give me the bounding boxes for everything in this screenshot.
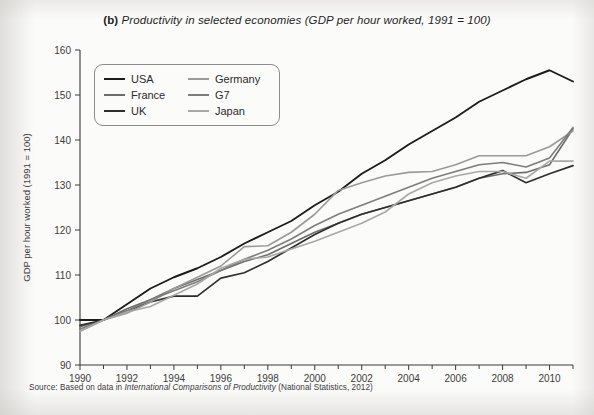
- y-tick-label: 140: [54, 135, 71, 146]
- legend-column-left: USA France UK: [104, 71, 165, 119]
- source-suffix: (National Statistics, 2012): [278, 383, 373, 392]
- y-axis: 90100110120130140150160: [54, 45, 80, 371]
- chart-legend: USA France UK Germany G7 Japan: [94, 64, 280, 126]
- source-prefix: Source: Based on data in: [29, 383, 122, 392]
- x-tick-label: 2006: [444, 373, 467, 384]
- x-axis: 1990199219941996199820002002200420062008…: [69, 365, 573, 384]
- legend-item-japan: Japan: [188, 103, 260, 119]
- legend-item-uk: UK: [104, 103, 165, 119]
- plot-area: 90100110120130140150160 1990199219941996…: [0, 0, 594, 415]
- y-tick-label: 110: [55, 270, 71, 281]
- legend-label-japan: Japan: [215, 106, 245, 117]
- y-tick-label: 90: [60, 360, 72, 371]
- legend-label-germany: Germany: [215, 74, 260, 85]
- legend-item-france: France: [104, 87, 165, 103]
- source-note: Source: Based on data in International C…: [29, 383, 373, 392]
- legend-column-right: Germany G7 Japan: [188, 71, 260, 119]
- series-line-japan: [80, 161, 573, 331]
- source-title: International Comparisons of Productivit…: [124, 383, 275, 392]
- legend-item-germany: Germany: [188, 71, 260, 87]
- legend-swatch-usa: [104, 78, 125, 80]
- legend-item-g7: G7: [188, 87, 260, 103]
- x-tick-label: 2010: [538, 373, 561, 384]
- legend-swatch-japan: [188, 110, 209, 112]
- y-tick-label: 130: [54, 180, 71, 191]
- legend-label-uk: UK: [131, 106, 146, 117]
- legend-swatch-germany: [188, 78, 209, 80]
- x-tick-label: 2004: [398, 373, 421, 384]
- legend-item-usa: USA: [104, 71, 165, 87]
- y-tick-label: 150: [54, 90, 71, 101]
- legend-label-g7: G7: [215, 90, 230, 101]
- series-line-france: [80, 129, 573, 327]
- y-tick-label: 160: [54, 45, 71, 56]
- figure-panel: (b) Productivity in selected economies (…: [0, 0, 594, 415]
- y-axis-title-text: GDP per hour worked (1991 = 100): [21, 133, 32, 281]
- x-tick-label: 2008: [491, 373, 514, 384]
- y-tick-label: 100: [54, 315, 71, 326]
- legend-swatch-uk: [104, 110, 125, 112]
- y-tick-label: 120: [54, 225, 71, 236]
- y-axis-title: GDP per hour worked (1991 = 100): [21, 133, 32, 281]
- series-line-uk: [80, 166, 573, 326]
- legend-label-france: France: [131, 90, 165, 101]
- legend-swatch-g7: [188, 94, 209, 96]
- legend-swatch-france: [104, 94, 125, 96]
- legend-label-usa: USA: [131, 74, 154, 85]
